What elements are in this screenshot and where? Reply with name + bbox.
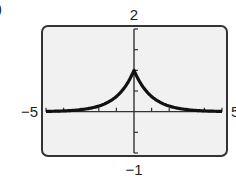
xmax-label: 5 [231,103,236,120]
graphing-calculator-window: ) 2 −1 −5 5 [0,0,236,180]
ymin-label: −1 [125,161,142,178]
xmin-label: −5 [21,103,38,120]
panel-label: ) [0,0,2,17]
ymax-label: 2 [130,6,138,23]
